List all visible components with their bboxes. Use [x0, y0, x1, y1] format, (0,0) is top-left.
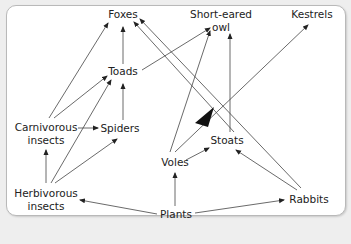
node-owl-label-line1: Short-eared	[190, 8, 252, 21]
node-voles-label: Voles	[161, 156, 189, 168]
node-toads: Toads	[108, 65, 138, 78]
node-stoats-label: Stoats	[210, 134, 243, 146]
arrow-stoats-foxes	[134, 22, 234, 132]
node-herbivorous-label-line1: Herbivorous	[14, 187, 78, 200]
node-plants-label: Plants	[160, 208, 192, 220]
node-kestrels: Kestrels	[291, 8, 332, 21]
node-foxes: Foxes	[108, 8, 138, 21]
node-herbivorous-insects: Herbivorous insects	[14, 187, 78, 213]
arrow-toads-owl	[142, 28, 210, 70]
arrow-rabbits-stoats	[236, 150, 297, 190]
arrow-carnivorous-foxes	[49, 23, 108, 118]
arrow-voles-stoats	[186, 148, 209, 160]
node-stoats: Stoats	[210, 134, 243, 147]
node-plants: Plants	[160, 208, 192, 221]
node-foxes-label: Foxes	[108, 8, 138, 20]
node-spiders: Spiders	[100, 122, 139, 135]
node-short-eared-owl: Short-eared owl	[190, 8, 252, 34]
node-spiders-label: Spiders	[100, 122, 139, 134]
node-herbivorous-label-line2: insects	[14, 200, 78, 213]
node-carnivorous-label-line1: Carnivorous	[15, 121, 78, 134]
arrow-plants-herbivorous	[80, 200, 157, 214]
node-kestrels-label: Kestrels	[291, 8, 332, 20]
node-carnivorous-insects: Carnivorous insects	[15, 121, 78, 147]
node-rabbits-label: Rabbits	[289, 193, 328, 205]
node-toads-label: Toads	[108, 65, 138, 77]
node-carnivorous-label-line2: insects	[15, 134, 78, 147]
node-voles: Voles	[161, 156, 189, 169]
node-rabbits: Rabbits	[289, 193, 328, 206]
arrow-plants-rabbits	[195, 200, 284, 213]
node-owl-label-line2: owl	[190, 21, 252, 34]
